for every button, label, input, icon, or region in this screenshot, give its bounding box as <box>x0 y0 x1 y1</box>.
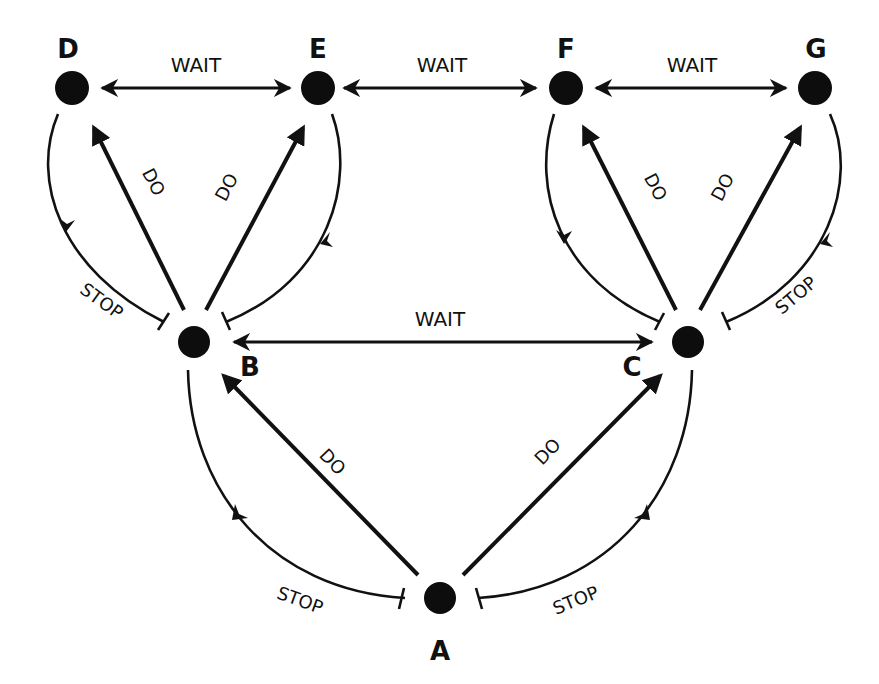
stop-edge-e-b <box>222 114 340 330</box>
wait-label-d-e: WAIT <box>171 53 222 77</box>
node-label-e: E <box>309 34 327 64</box>
wait-label-e-f: WAIT <box>417 53 468 77</box>
stop-edge-f-c <box>546 114 664 330</box>
node-label-d: D <box>57 34 79 64</box>
do-label-a-c: DO <box>530 434 565 469</box>
do-label-b-d: DO <box>138 165 170 200</box>
stop-edge-g-c: STOP <box>722 114 841 330</box>
stop-label-c-a: STOP <box>550 581 602 618</box>
node-label-g: G <box>805 34 826 64</box>
node-e: E <box>301 34 335 105</box>
stop-edge-d-b: STOP <box>48 114 169 330</box>
do-label-c-f: DO <box>640 170 672 205</box>
wait-edge-f-g: WAIT <box>596 53 786 88</box>
wait-label-f-g: WAIT <box>667 53 718 77</box>
wait-edge-d-e: WAIT <box>102 53 290 88</box>
node-f: F <box>549 34 583 105</box>
stop-edge-c-a: STOP <box>476 370 692 619</box>
wait-label-b-c: WAIT <box>415 307 466 331</box>
wait-edge-e-f: WAIT <box>344 53 536 88</box>
node-label-b: B <box>240 352 260 382</box>
do-edge-a-c: DO <box>463 376 660 575</box>
stop-edge-b-a: STOP <box>188 370 405 618</box>
node-g: G <box>798 34 832 105</box>
node-d: D <box>55 34 89 105</box>
state-transition-diagram: WAIT WAIT WAIT WAIT DO DO STOP DO <box>0 0 879 684</box>
do-label-b-e: DO <box>210 170 242 205</box>
node-b: B <box>178 326 260 382</box>
node-a: A <box>424 582 456 666</box>
do-edge-c-g: DO <box>700 128 800 310</box>
stop-label-d-b: STOP <box>76 278 127 323</box>
wait-edge-b-c: WAIT <box>234 307 652 342</box>
do-label-c-g: DO <box>706 170 738 205</box>
stop-label-b-a: STOP <box>274 582 326 618</box>
node-label-a: A <box>430 636 450 666</box>
stop-label-g-c: STOP <box>771 272 821 319</box>
node-label-f: F <box>557 34 575 64</box>
node-label-c: C <box>622 352 641 382</box>
do-edge-a-b: DO <box>224 376 418 575</box>
